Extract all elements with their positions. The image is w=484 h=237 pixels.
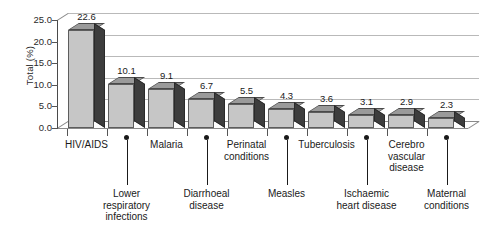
y-axis-line [57, 20, 58, 128]
gridline-15 [68, 56, 479, 57]
y-tick-mark [52, 128, 58, 129]
bar-front-face [268, 109, 294, 128]
x-tick-mark [347, 129, 348, 136]
x-tick-mark [307, 129, 308, 136]
x-axis-label: Ischaemic heart disease [321, 188, 413, 211]
bar-side-face [374, 108, 385, 128]
bar-front-face [68, 30, 94, 128]
bar-side-face [414, 108, 425, 128]
y-tick-mark [52, 63, 58, 64]
x-tick-mark [227, 129, 228, 136]
x-tick-mark [147, 129, 148, 136]
gridline-20 [68, 35, 479, 36]
bar-side-face [214, 92, 225, 128]
y-tick-label: 5.0 [18, 101, 52, 111]
bar-side-face [134, 77, 145, 128]
x-axis-label: Maternal conditions [401, 188, 484, 211]
bar-side-face [254, 97, 265, 128]
floor-front-edge [57, 128, 468, 129]
x-axis-label: Tuberculosis [281, 139, 373, 151]
bar-value-label: 9.1 [140, 70, 193, 81]
floor-right-edge [468, 121, 480, 129]
bar-side-face [334, 105, 345, 128]
bar-front-face [308, 112, 334, 128]
x-axis-label: Cerebro vascular disease [361, 139, 453, 174]
bar-front-face [228, 104, 254, 128]
bar-front-face [188, 99, 214, 128]
x-tick-mark [267, 129, 268, 136]
bar-front-face [108, 84, 134, 128]
bar-value-label: 22.6 [60, 11, 113, 22]
bar-value-label: 2.3 [420, 99, 473, 110]
y-tick-label: 0.0 [18, 123, 52, 133]
y-tick-mark [52, 85, 58, 86]
y-tick-mark [52, 42, 58, 43]
x-tick-mark [107, 129, 108, 136]
x-axis-label: Measles [241, 188, 333, 200]
y-tick-label: 15.0 [18, 58, 52, 68]
gridline-25 [68, 13, 479, 14]
bar-side-face [294, 102, 305, 128]
y-tick-mark [52, 20, 58, 21]
bar-front-face [348, 115, 374, 128]
x-tick-mark [187, 129, 188, 136]
bar-side-face [454, 111, 465, 128]
y-tick-label: 10.0 [18, 80, 52, 90]
x-axis-label: Diarrhoeal disease [161, 188, 253, 211]
x-axis-label: Malaria [121, 139, 213, 151]
x-tick-mark [67, 129, 68, 136]
y-tick-label: 25.0 [18, 15, 52, 25]
bar-front-face [428, 118, 454, 128]
x-axis-label: Perinatal conditions [201, 139, 293, 162]
leader-line [447, 140, 448, 185]
x-tick-mark [387, 129, 388, 136]
y-tick-label: 20.0 [18, 37, 52, 47]
x-axis-label: HIV/AIDS [41, 139, 133, 151]
y-tick-mark [52, 106, 58, 107]
x-axis-label: Lower respiratory infections [81, 188, 173, 223]
bar-front-face [388, 115, 414, 128]
x-tick-mark [427, 129, 428, 136]
bar-front-face [148, 89, 174, 128]
